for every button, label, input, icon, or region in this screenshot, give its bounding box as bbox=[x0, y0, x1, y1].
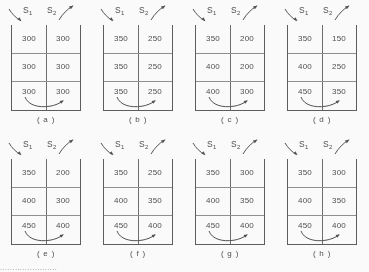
cell-r2-c1: 350 bbox=[104, 53, 138, 81]
cell-r1-c2: 300 bbox=[46, 25, 80, 53]
outflow-arrow-icon bbox=[242, 138, 262, 156]
cell-r1-c1: 350 bbox=[104, 159, 138, 187]
panel-g: S1S2350300400350450400( g ) bbox=[184, 136, 276, 268]
vessel-box: 350300400350450400 bbox=[195, 159, 265, 245]
outflow-arrow-icon bbox=[242, 4, 262, 22]
vessel-box: 350300400350450400 bbox=[287, 159, 357, 245]
column-label-s1: S1 bbox=[23, 5, 32, 15]
row-divider-2 bbox=[104, 215, 172, 216]
vessel-box: 350200400300450400 bbox=[11, 159, 81, 245]
cell-r2-c2: 200 bbox=[230, 53, 264, 81]
transfer-arrow-icon bbox=[300, 230, 346, 243]
figure-panel-grid: S1S2300300300300300300( a )S1S2350250350… bbox=[0, 0, 369, 272]
transfer-arrow-icon bbox=[208, 96, 254, 109]
panel-f: S1S2350250400350450400( f ) bbox=[92, 136, 184, 268]
panel-row-top: S1S2300300300300300300( a )S1S2350250350… bbox=[0, 2, 369, 136]
row-divider-2 bbox=[196, 215, 264, 216]
outflow-arrow-icon bbox=[58, 4, 78, 22]
transfer-arrow-icon bbox=[116, 230, 162, 243]
row-divider-2 bbox=[12, 215, 80, 216]
column-label-s1: S1 bbox=[23, 139, 32, 149]
outflow-arrow-icon bbox=[58, 138, 78, 156]
row-divider-1 bbox=[196, 187, 264, 188]
column-label-s2: S2 bbox=[47, 5, 56, 15]
vessel-box: 350250350250350250 bbox=[103, 25, 173, 111]
row-divider-2 bbox=[12, 81, 80, 82]
panel-row-bottom: S1S2350200400300450400( e )S1S2350250400… bbox=[0, 136, 369, 268]
column-label-s1: S1 bbox=[115, 5, 124, 15]
cell-r2-c1: 400 bbox=[12, 187, 46, 215]
cell-r2-c1: 400 bbox=[288, 187, 322, 215]
cell-r1-c1: 350 bbox=[196, 159, 230, 187]
cell-r1-c2: 150 bbox=[322, 25, 356, 53]
column-label-s1: S1 bbox=[207, 5, 216, 15]
panel-a: S1S2300300300300300300( a ) bbox=[0, 2, 92, 136]
cell-r1-c2: 250 bbox=[138, 25, 172, 53]
row-divider-1 bbox=[104, 53, 172, 54]
outflow-arrow-icon bbox=[334, 138, 354, 156]
panel-caption: ( b ) bbox=[92, 115, 184, 124]
column-label-s2: S2 bbox=[47, 139, 56, 149]
cell-r2-c2: 250 bbox=[322, 53, 356, 81]
row-divider-1 bbox=[196, 53, 264, 54]
cell-r1-c1: 350 bbox=[12, 159, 46, 187]
column-label-s1: S1 bbox=[299, 5, 308, 15]
column-label-s2: S2 bbox=[231, 139, 240, 149]
transfer-arrow-icon bbox=[208, 230, 254, 243]
panel-header: S1S2 bbox=[184, 136, 276, 160]
row-divider-1 bbox=[104, 187, 172, 188]
cell-r1-c1: 350 bbox=[196, 25, 230, 53]
panel-header: S1S2 bbox=[92, 136, 184, 160]
row-divider-1 bbox=[288, 53, 356, 54]
column-label-s2: S2 bbox=[139, 5, 148, 15]
column-label-s1: S1 bbox=[115, 139, 124, 149]
column-label-s1: S1 bbox=[207, 139, 216, 149]
panel-caption: ( a ) bbox=[0, 115, 92, 124]
bottom-edge-text-value: ....................... bbox=[0, 265, 369, 272]
column-label-s2: S2 bbox=[323, 5, 332, 15]
panel-e: S1S2350200400300450400( e ) bbox=[0, 136, 92, 268]
column-label-s2: S2 bbox=[231, 5, 240, 15]
panel-h: S1S2350300400350450400( h ) bbox=[276, 136, 368, 268]
cell-r1-c2: 300 bbox=[322, 159, 356, 187]
cell-r2-c2: 250 bbox=[138, 53, 172, 81]
cell-r2-c2: 300 bbox=[46, 53, 80, 81]
column-label-s2: S2 bbox=[139, 139, 148, 149]
cell-r1-c2: 200 bbox=[230, 25, 264, 53]
cell-r1-c2: 250 bbox=[138, 159, 172, 187]
panel-caption: ( g ) bbox=[184, 249, 276, 258]
panel-caption: ( h ) bbox=[276, 249, 368, 258]
panel-caption: ( c ) bbox=[184, 115, 276, 124]
panel-caption: ( f ) bbox=[92, 249, 184, 258]
row-divider-2 bbox=[288, 215, 356, 216]
panel-header: S1S2 bbox=[92, 2, 184, 26]
row-divider-1 bbox=[288, 187, 356, 188]
transfer-arrow-icon bbox=[300, 96, 346, 109]
outflow-arrow-icon bbox=[334, 4, 354, 22]
outflow-arrow-icon bbox=[150, 4, 170, 22]
panel-header: S1S2 bbox=[276, 136, 368, 160]
panel-header: S1S2 bbox=[184, 2, 276, 26]
vessel-box: 350200400200400300 bbox=[195, 25, 265, 111]
vessel-box: 350150400250450350 bbox=[287, 25, 357, 111]
panel-caption: ( e ) bbox=[0, 249, 92, 258]
cell-r2-c1: 400 bbox=[196, 53, 230, 81]
cell-r2-c1: 400 bbox=[196, 187, 230, 215]
cell-r2-c2: 350 bbox=[322, 187, 356, 215]
cell-r1-c1: 350 bbox=[104, 25, 138, 53]
row-divider-2 bbox=[288, 81, 356, 82]
transfer-arrow-icon bbox=[116, 96, 162, 109]
cell-r2-c2: 300 bbox=[46, 187, 80, 215]
vessel-box: 350250400350450400 bbox=[103, 159, 173, 245]
cell-r1-c2: 300 bbox=[230, 159, 264, 187]
transfer-arrow-icon bbox=[24, 96, 70, 109]
row-divider-2 bbox=[104, 81, 172, 82]
panel-header: S1S2 bbox=[276, 2, 368, 26]
vessel-box: 300300300300300300 bbox=[11, 25, 81, 111]
row-divider-1 bbox=[12, 187, 80, 188]
cell-r1-c1: 350 bbox=[288, 159, 322, 187]
cell-r2-c2: 350 bbox=[138, 187, 172, 215]
cell-r1-c2: 200 bbox=[46, 159, 80, 187]
outflow-arrow-icon bbox=[150, 138, 170, 156]
cell-r2-c1: 400 bbox=[104, 187, 138, 215]
